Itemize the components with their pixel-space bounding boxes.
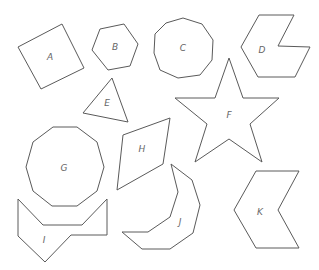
shape-g: G bbox=[26, 127, 104, 206]
shapes-svg: ABCDEFGHIJK bbox=[0, 0, 319, 270]
shape-b: B bbox=[92, 24, 138, 70]
shape-label: G bbox=[61, 163, 68, 173]
shape-h-outline bbox=[117, 118, 170, 190]
shape-label: I bbox=[43, 235, 46, 245]
shape-c: C bbox=[154, 18, 213, 78]
shape-d: D bbox=[241, 15, 310, 77]
shape-i-outline bbox=[18, 199, 107, 262]
shape-label: E bbox=[104, 98, 110, 108]
shape-h: H bbox=[117, 118, 170, 190]
shape-k-outline bbox=[234, 171, 299, 248]
shape-i: I bbox=[18, 199, 107, 262]
shape-a: A bbox=[18, 24, 84, 89]
shape-label: F bbox=[226, 110, 232, 120]
shape-label: C bbox=[180, 43, 187, 53]
shape-k: K bbox=[234, 171, 299, 248]
shape-label: B bbox=[112, 42, 118, 52]
shape-label: D bbox=[259, 45, 266, 55]
shapes-diagram: ABCDEFGHIJK bbox=[0, 0, 319, 270]
shape-label: A bbox=[46, 52, 53, 62]
shape-d-outline bbox=[241, 15, 310, 77]
shape-label: H bbox=[139, 144, 146, 154]
shape-e: E bbox=[83, 78, 128, 122]
